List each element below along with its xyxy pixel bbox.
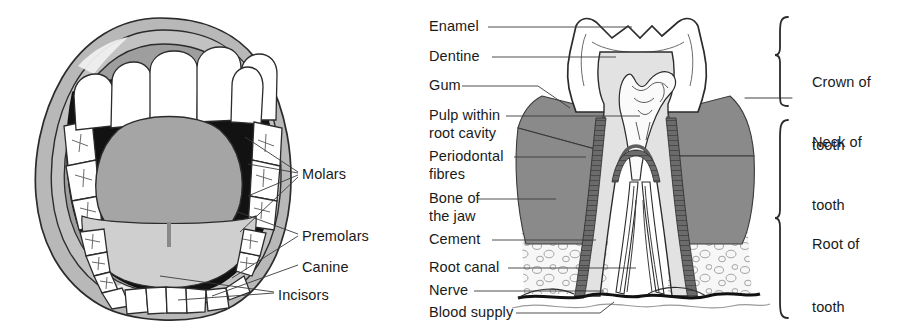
mouth-label-molars: Molars bbox=[302, 167, 346, 183]
tooth-label-blood-supply: Blood supply bbox=[429, 305, 513, 321]
tooth-label-periodontal: Periodontal bbox=[429, 149, 503, 165]
tooth-label-enamel: Enamel bbox=[429, 19, 479, 35]
mouth-label-canine: Canine bbox=[302, 260, 349, 276]
bracket-root-line1: Root of bbox=[812, 234, 859, 255]
bracket-label-root-of-tooth: Root of tooth bbox=[812, 192, 859, 332]
mouth-label-incisors: Incisors bbox=[278, 288, 329, 304]
anatomy-figure: Molars Premolars Canine Incisors bbox=[0, 0, 899, 332]
tooth-label-gum: Gum bbox=[429, 78, 461, 94]
tooth-label-root-canal: Root canal bbox=[429, 260, 499, 276]
tooth-label-dentine: Dentine bbox=[429, 49, 480, 65]
tooth-diagram: Enamel Dentine Gum Pulp within root cavi… bbox=[400, 0, 899, 332]
tooth-label-root-cavity: root cavity bbox=[429, 126, 496, 142]
tooth-label-bone-of: Bone of bbox=[429, 191, 480, 207]
tooth-label-pulp-within: Pulp within bbox=[429, 108, 500, 124]
tooth-label-nerve: Nerve bbox=[429, 283, 468, 299]
tooth-label-fibres: fibres bbox=[429, 167, 465, 183]
bracket-root-line2: tooth bbox=[812, 297, 859, 318]
mouth-diagram: Molars Premolars Canine Incisors bbox=[0, 0, 440, 332]
mouth-svg bbox=[0, 0, 440, 332]
bracket-neck-line1: Neck of bbox=[812, 132, 862, 153]
mouth-label-premolars: Premolars bbox=[302, 229, 369, 245]
tooth-label-cement: Cement bbox=[429, 232, 480, 248]
tooth-label-the-jaw: the jaw bbox=[429, 209, 476, 225]
